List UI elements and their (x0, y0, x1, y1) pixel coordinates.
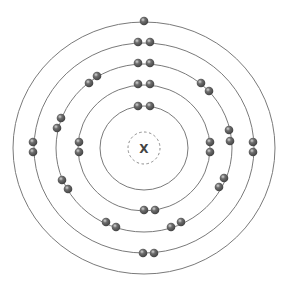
electron (93, 72, 102, 81)
electron (206, 138, 215, 147)
electron (53, 124, 62, 133)
electron (206, 148, 215, 157)
electron (134, 59, 143, 68)
electron (75, 148, 84, 157)
electron (167, 223, 176, 232)
nucleus: X (128, 132, 160, 164)
electron (151, 206, 160, 215)
electron (134, 38, 143, 47)
electron (112, 223, 121, 232)
electron (75, 138, 84, 147)
electron (29, 148, 38, 157)
electron (146, 59, 155, 68)
electron (134, 80, 143, 89)
electron (146, 80, 155, 89)
electron (225, 126, 234, 135)
electron (226, 137, 235, 146)
bohr-diagram: X (0, 0, 288, 287)
electron (139, 249, 148, 258)
electron (134, 102, 143, 111)
electron (215, 183, 224, 192)
electron (150, 249, 159, 258)
electron (85, 79, 94, 88)
electron (249, 148, 258, 157)
electron (177, 218, 186, 227)
electron (29, 138, 38, 147)
nucleus-label: X (139, 142, 149, 156)
electron (64, 185, 73, 194)
electron (220, 174, 229, 183)
electron (140, 206, 149, 215)
electron (146, 38, 155, 47)
electron (146, 102, 155, 111)
electron (249, 138, 258, 147)
electron (58, 176, 67, 185)
electron (205, 87, 214, 96)
electron (197, 79, 206, 88)
electron (57, 114, 66, 123)
electron (102, 218, 111, 227)
electron (140, 17, 149, 26)
